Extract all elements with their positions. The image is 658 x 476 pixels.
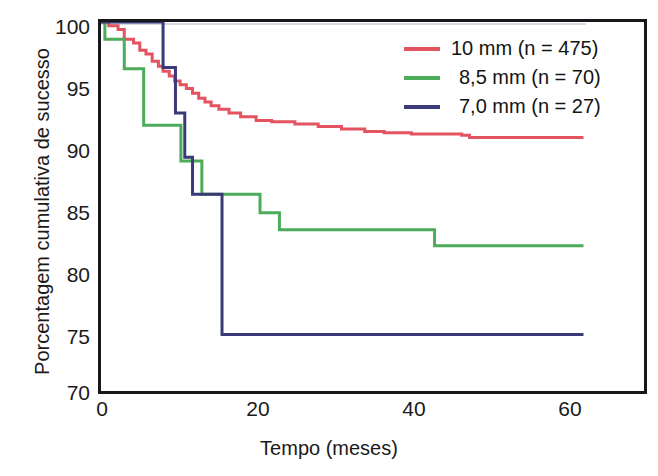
- legend-item-10mm: 10 mm (n = 475): [404, 34, 601, 63]
- kaplan-meier-chart: Porcentagem cumulativa de sucesso 100 95…: [0, 0, 658, 476]
- legend-swatch-10mm: [404, 47, 440, 51]
- legend-item-70mm: 7,0 mm (n = 27): [404, 92, 601, 121]
- legend-label-70mm: 7,0 mm (n = 27): [459, 95, 601, 118]
- legend-swatch-70mm: [404, 105, 440, 109]
- legend-label-85mm: 8,5 mm (n = 70): [459, 66, 601, 89]
- legend-swatch-85mm: [404, 76, 440, 80]
- x-axis-title: Tempo (meses): [0, 437, 658, 460]
- legend-item-85mm: 8,5 mm (n = 70): [404, 63, 601, 92]
- legend-label-10mm: 10 mm (n = 475): [451, 37, 598, 60]
- legend: 10 mm (n = 475) 8,5 mm (n = 70) 7,0 mm (…: [404, 34, 601, 121]
